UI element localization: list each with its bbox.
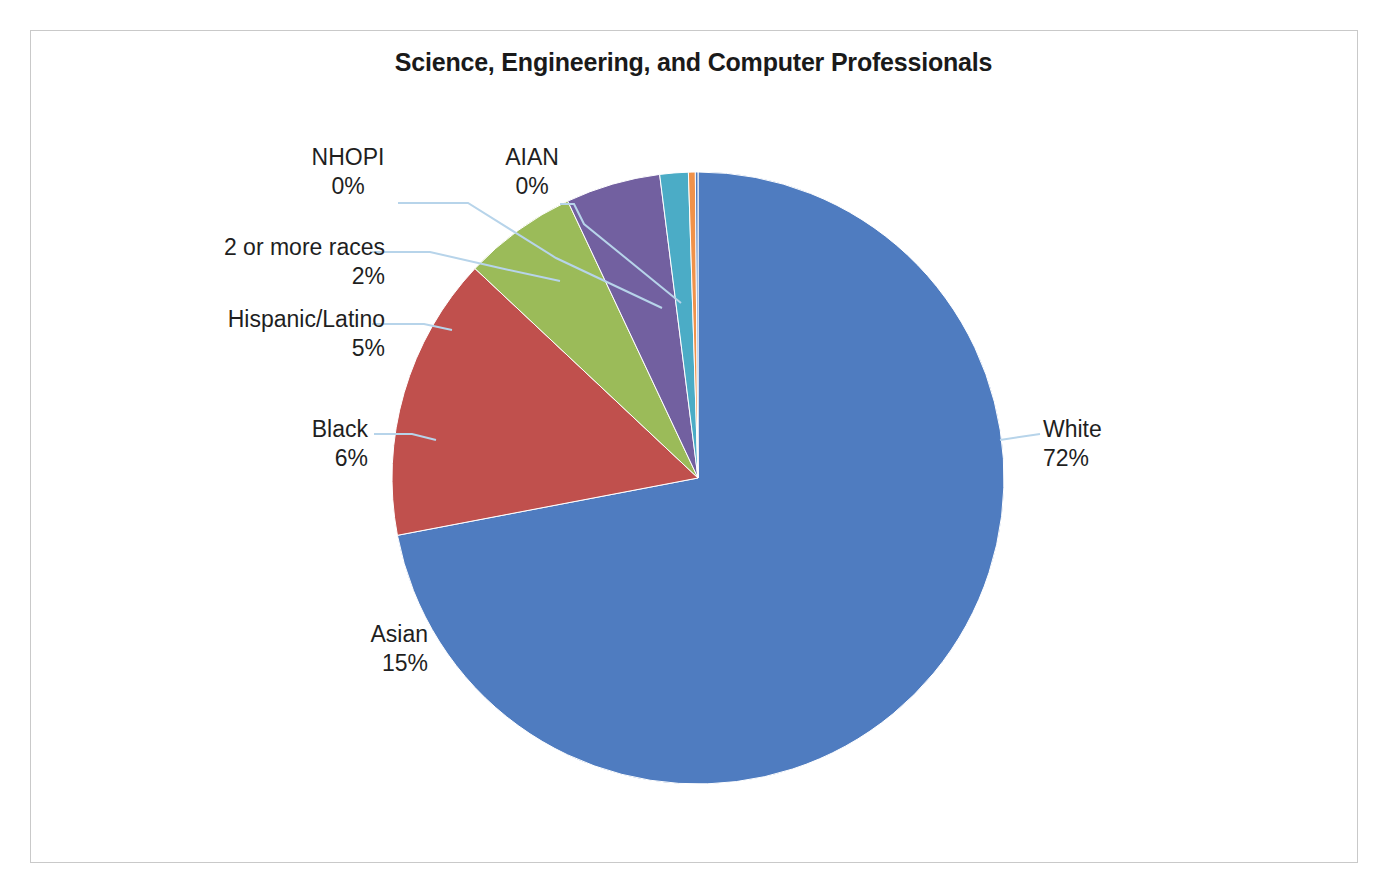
pie-label-asian-value: 15% (180, 649, 428, 678)
pie-label-two-or-more-races: 2 or more races 2% (60, 233, 385, 291)
pie-label-two-or-more-races-name: 2 or more races (60, 233, 385, 262)
pie-label-hispanic-latino: Hispanic/Latino 5% (60, 305, 385, 363)
pie-label-black-value: 6% (100, 444, 368, 473)
pie-label-nhopi-value: 0% (268, 172, 428, 201)
pie-label-nhopi: NHOPI 0% (268, 143, 428, 201)
pie-label-aian-value: 0% (452, 172, 612, 201)
pie-label-asian: Asian 15% (180, 620, 428, 678)
pie-label-two-or-more-races-value: 2% (60, 262, 385, 291)
pie-label-white-value: 72% (1043, 444, 1243, 473)
pie-label-aian-name: AIAN (452, 143, 612, 172)
pie-label-asian-name: Asian (180, 620, 428, 649)
pie-label-hispanic-latino-value: 5% (60, 334, 385, 363)
leader-line-white (1000, 434, 1040, 440)
pie-label-aian: AIAN 0% (452, 143, 612, 201)
pie-label-white-name: White (1043, 415, 1243, 444)
pie-chart-page: Science, Engineering, and Computer Profe… (0, 0, 1387, 895)
pie-label-black-name: Black (100, 415, 368, 444)
pie-label-black: Black 6% (100, 415, 368, 473)
pie-label-nhopi-name: NHOPI (268, 143, 428, 172)
pie-label-white: White 72% (1043, 415, 1243, 473)
pie-label-hispanic-latino-name: Hispanic/Latino (60, 305, 385, 334)
